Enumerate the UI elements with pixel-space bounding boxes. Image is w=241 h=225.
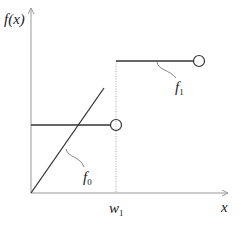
f0-diagonal-line — [31, 88, 104, 193]
y-axis-label: f(x) — [4, 11, 25, 28]
f1-callout-curve — [157, 62, 176, 78]
f0-label: f0 — [83, 169, 92, 187]
f1-open-circle-icon — [194, 56, 205, 67]
x-axis-label: x — [220, 199, 228, 215]
f1-label: f1 — [175, 79, 184, 97]
f0-callout-curve — [66, 149, 84, 167]
threshold-label: w1 — [109, 200, 124, 218]
diagram-canvas: f(x) x w1 f1 f0 — [0, 0, 241, 225]
